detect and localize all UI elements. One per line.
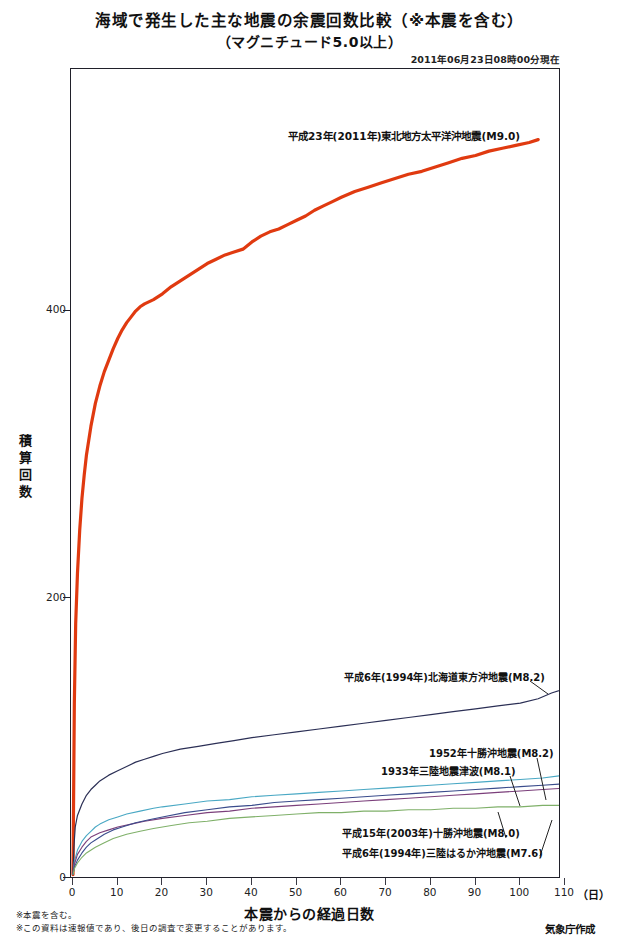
x-tick-label-110: 110: [549, 886, 579, 898]
x-tick-mark-30: [206, 878, 207, 885]
x-tick-mark-80: [430, 878, 431, 885]
x-tick-mark-0: [72, 878, 73, 885]
x-tick-label-50: 50: [281, 886, 311, 898]
y-axis-label-char-3: 数: [14, 483, 36, 500]
y-axis-label: 積 算 回 数: [14, 432, 36, 500]
x-tick-mark-110: [564, 878, 565, 885]
x-tick-label-10: 10: [102, 886, 132, 898]
x-tick-mark-40: [251, 878, 252, 885]
y-tick-label-0: 0: [26, 871, 66, 883]
y-tick-mark-0: [63, 877, 70, 878]
x-tick-label-100: 100: [504, 886, 534, 898]
x-tick-mark-100: [519, 878, 520, 885]
x-tick-label-60: 60: [325, 886, 355, 898]
footnote-2: ※この資料は速報値であり、後日の調査で変更することがあります。: [16, 921, 292, 933]
y-axis-label-char-2: 回: [14, 466, 36, 483]
x-tick-mark-70: [385, 878, 386, 885]
chart-title-line1: 海域で発生した主な地震の余震回数比較（※本震を含む）: [0, 8, 619, 30]
y-tick-mark-400: [63, 310, 70, 311]
chart-datestamp: 2011年06月23日08時00分現在: [411, 52, 560, 66]
x-axis-unit: （日）: [577, 886, 610, 902]
credit-label: 気象庁作成: [545, 921, 595, 936]
annotation-tokachi-1952: 1952年十勝沖地震(M8.2): [429, 745, 554, 760]
x-tick-label-0: 0: [57, 886, 87, 898]
chart-page: 海域で発生した主な地震の余震回数比較（※本震を含む） （マグニチュード5.0以上…: [0, 0, 619, 952]
annotation-sanriku-1994: 平成6年(1994年)三陸はるか沖地震(M7.6): [342, 845, 543, 860]
x-tick-label-90: 90: [460, 886, 490, 898]
x-tick-label-30: 30: [191, 886, 221, 898]
annotation-tokachi-2003: 平成15年(2003年)十勝沖地震(M8.0): [342, 825, 520, 840]
footnote-1: ※本震を含む。: [16, 908, 77, 920]
y-tick-label-200: 200: [26, 591, 66, 603]
x-tick-label-80: 80: [415, 886, 445, 898]
x-tick-mark-90: [475, 878, 476, 885]
x-tick-mark-60: [340, 878, 341, 885]
annotation-tohoku-2011: 平成23年(2011年)東北地方太平洋沖地震(M9.0): [288, 128, 520, 143]
x-axis-label: 本震からの経過日数: [0, 903, 619, 923]
y-axis-label-char-0: 積: [14, 432, 36, 449]
x-tick-label-70: 70: [370, 886, 400, 898]
y-tick-label-400: 400: [26, 303, 66, 315]
x-tick-label-40: 40: [236, 886, 266, 898]
x-tick-label-20: 20: [146, 886, 176, 898]
x-tick-mark-20: [161, 878, 162, 885]
annotation-hokkaido-1994: 平成6年(1994年)北海道東方沖地震(M8.2): [344, 669, 545, 684]
y-tick-mark-200: [63, 597, 70, 598]
x-tick-mark-50: [296, 878, 297, 885]
x-tick-mark-10: [117, 878, 118, 885]
annotation-sanriku-1933: 1933年三陸地震津波(M8.1): [381, 763, 516, 778]
chart-title-line2: （マグニチュード5.0以上）: [0, 31, 619, 51]
y-axis-label-char-1: 算: [14, 449, 36, 466]
